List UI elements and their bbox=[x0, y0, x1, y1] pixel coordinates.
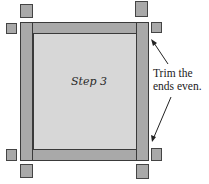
trimmed-end-top-right-horizontal bbox=[151, 22, 162, 33]
trim-annotation-line-2: ends even. bbox=[153, 80, 202, 93]
trimmed-end-bottom-left-vertical bbox=[20, 164, 33, 178]
trimmed-end-top-left-vertical bbox=[20, 4, 33, 18]
trimmed-end-bottom-left-horizontal bbox=[6, 149, 17, 161]
trim-annotation-line-1: Trim the bbox=[153, 67, 193, 80]
trimmed-end-bottom-right-horizontal bbox=[151, 148, 162, 161]
trimmed-end-top-left-horizontal bbox=[6, 23, 17, 34]
trimmed-end-top-right-vertical bbox=[135, 1, 148, 17]
top-border-strip bbox=[32, 22, 137, 34]
bottom-border-strip bbox=[32, 149, 137, 161]
quilt-border-diagram: Step 3 Trim the ends even. bbox=[0, 0, 209, 184]
trimmed-end-bottom-right-vertical bbox=[136, 164, 149, 179]
arrow-to-top-right-end bbox=[151, 39, 168, 64]
right-border-strip bbox=[136, 22, 149, 161]
quilt-center-panel bbox=[33, 33, 137, 150]
step-label: Step 3 bbox=[71, 75, 107, 88]
arrow-to-bottom-right-end bbox=[151, 97, 171, 142]
left-border-strip bbox=[20, 22, 33, 161]
